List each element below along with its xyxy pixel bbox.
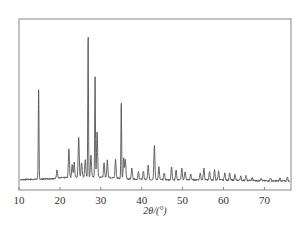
x-tick-label: 20 — [54, 194, 66, 206]
xrd-profile — [20, 37, 289, 182]
x-axis-tick-labels: 10203040506070 — [14, 194, 271, 206]
x-tick-label: 10 — [14, 194, 26, 206]
x-tick-label: 30 — [95, 194, 107, 206]
x-tick-label: 70 — [259, 194, 271, 206]
x-axis-label: 2θ/(°) — [143, 205, 167, 217]
x-tick-label: 50 — [177, 194, 189, 206]
x-tick-label: 60 — [218, 194, 230, 206]
xrd-chart: 10203040506070 2θ/(°) — [0, 0, 301, 228]
xrd-line — [20, 37, 289, 182]
